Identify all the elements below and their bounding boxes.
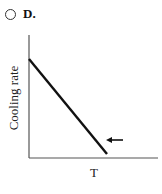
data-line	[29, 59, 107, 154]
chart: T Cooling rate	[0, 0, 162, 194]
y-axis-label: Cooling rate	[6, 65, 21, 130]
arrow-left-icon	[106, 137, 123, 143]
x-axis-label: T	[90, 165, 98, 180]
